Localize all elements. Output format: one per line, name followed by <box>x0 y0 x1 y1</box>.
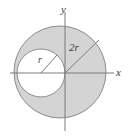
figure-canvas <box>0 0 130 136</box>
y-axis-label: y <box>61 4 66 15</box>
inner-radius-label: r <box>38 55 42 65</box>
x-axis-label: x <box>116 67 121 78</box>
circle-geometry-figure: y x 2r r <box>0 0 130 136</box>
outer-radius-label: 2r <box>69 42 79 53</box>
